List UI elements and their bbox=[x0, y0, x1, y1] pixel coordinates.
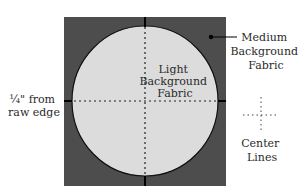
medium-fabric-label: Medium Background Fabric bbox=[230, 31, 301, 72]
applique-diagram: Medium Background Fabric Light Backgroun… bbox=[0, 0, 301, 195]
center-lines-label: Center Lines bbox=[241, 137, 283, 164]
seam-allowance-label: ¼" from raw edge bbox=[8, 93, 60, 119]
